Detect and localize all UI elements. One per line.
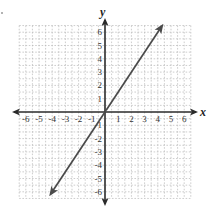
x-tick-label: -5 <box>35 114 43 124</box>
y-tick-label: -6 <box>95 187 103 197</box>
x-tick-label: 3 <box>142 114 147 124</box>
y-axis-label: y <box>98 5 106 19</box>
x-tick-label: 6 <box>182 114 187 124</box>
x-axis-label: x <box>199 105 206 119</box>
coordinate-plane: -6-5-4-3-2-1123456654321-1-2-3-4-5-6 y x <box>0 0 210 211</box>
y-tick-label: -5 <box>95 174 103 184</box>
y-tick-label: 4 <box>98 54 103 64</box>
y-tick-label: 1 <box>98 94 103 104</box>
y-tick-label: -3 <box>95 147 103 157</box>
x-tick-label: -3 <box>62 114 70 124</box>
y-tick-label: 6 <box>98 27 103 37</box>
corner-mark <box>1 12 3 14</box>
x-tick-label: 4 <box>156 114 161 124</box>
data-series <box>51 26 162 194</box>
y-tick-label: 3 <box>98 67 103 77</box>
x-tick-label: -4 <box>48 114 56 124</box>
x-tick-label: -6 <box>22 114 30 124</box>
y-tick-label: -4 <box>95 160 103 170</box>
x-tick-label: 1 <box>116 114 121 124</box>
y-tick-label: -2 <box>95 134 103 144</box>
x-tick-label: 2 <box>129 114 134 124</box>
y-tick-label: 2 <box>98 80 103 90</box>
data-line-upper <box>106 26 161 110</box>
x-tick-label: -2 <box>75 114 83 124</box>
x-tick-label: 5 <box>169 114 174 124</box>
y-tick-label: 5 <box>98 41 103 51</box>
